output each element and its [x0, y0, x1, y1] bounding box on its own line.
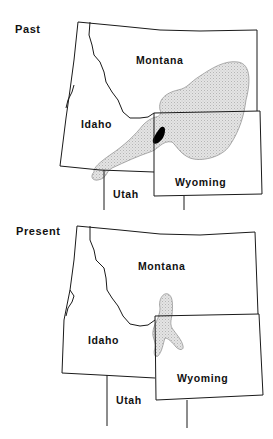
map-present-graphic: [0, 220, 273, 439]
map-title: Present: [16, 225, 61, 237]
state-label-montana: Montana: [138, 260, 185, 272]
past-range-area: [92, 62, 249, 180]
state-label-utah: Utah: [116, 394, 142, 406]
state-label-utah: Utah: [113, 188, 139, 200]
idaho-montana-divide-past: [89, 22, 154, 118]
map-present: Present Montana Idaho Wyoming Utah: [0, 220, 273, 439]
state-label-idaho: Idaho: [81, 118, 112, 130]
state-label-montana: Montana: [136, 54, 183, 66]
state-label-idaho: Idaho: [88, 334, 119, 346]
idaho-montana-divide-present: [90, 226, 155, 326]
idaho-border-present: [62, 226, 155, 378]
map-past-graphic: [0, 0, 273, 220]
state-label-wyoming: Wyoming: [177, 372, 228, 384]
map-title: Past: [15, 23, 41, 35]
present-range-area: [153, 294, 183, 357]
state-label-wyoming: Wyoming: [175, 176, 226, 188]
map-past: Past Montana Idaho Wyoming Utah: [0, 0, 273, 220]
